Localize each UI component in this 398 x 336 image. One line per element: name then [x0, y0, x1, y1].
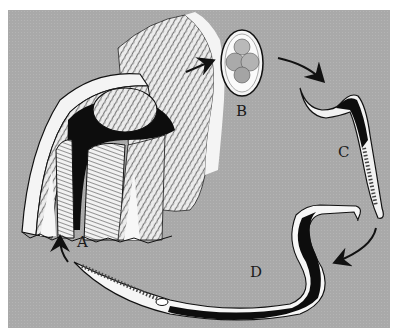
skin-cross-section: [22, 12, 225, 243]
arrow-to-skin: [60, 238, 68, 262]
label-a: A: [77, 235, 88, 250]
label-b: B: [236, 104, 247, 119]
arrow-to-rhabditiform-larva: [278, 58, 322, 80]
egg: [221, 30, 263, 96]
label-d: D: [250, 265, 262, 280]
arrow-to-filariform-larva: [336, 228, 376, 262]
life-cycle-illustration: [0, 0, 398, 336]
label-c: C: [338, 145, 349, 160]
